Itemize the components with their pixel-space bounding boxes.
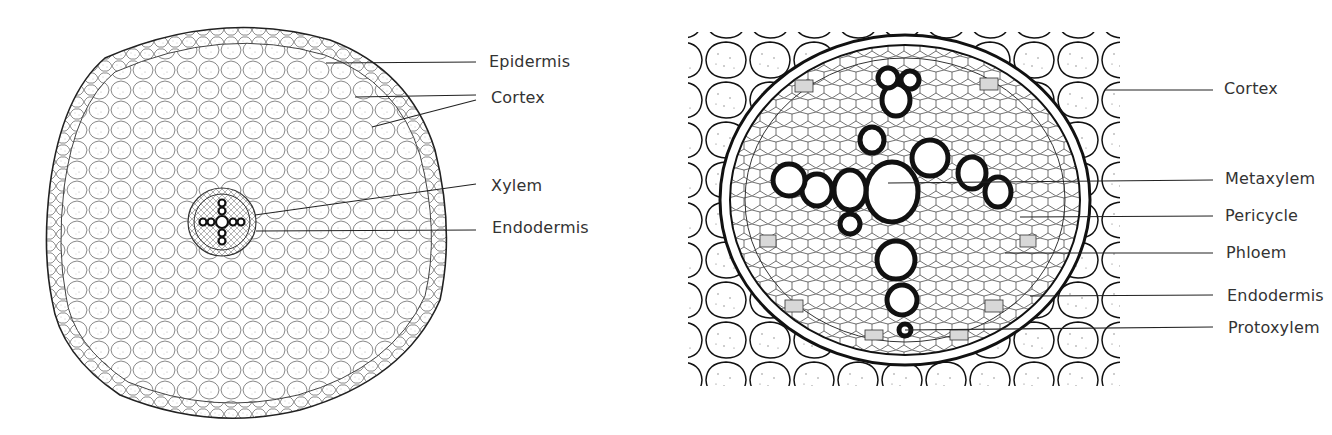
label-cortex: Cortex <box>491 90 545 106</box>
label-endodermis-detail: Endodermis <box>1227 288 1324 304</box>
label-xylem: Xylem <box>491 178 542 194</box>
stele-detail-panel: Cortex Metaxylem Pericycle Phloem Endode… <box>660 0 1332 435</box>
label-endodermis: Endodermis <box>492 220 589 236</box>
label-protoxylem: Protoxylem <box>1228 320 1320 336</box>
label-phloem: Phloem <box>1226 245 1287 261</box>
label-pericycle: Pericycle <box>1225 208 1298 224</box>
label-epidermis: Epidermis <box>489 54 570 70</box>
label-metaxylem: Metaxylem <box>1225 171 1315 187</box>
root-cross-section-panel: Epidermis Cortex Xylem Endodermis <box>0 0 660 435</box>
label-cortex-detail: Cortex <box>1224 81 1278 97</box>
